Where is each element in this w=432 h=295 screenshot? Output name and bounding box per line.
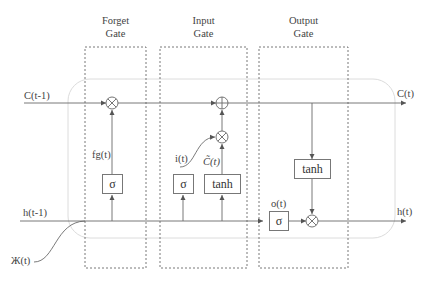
sigma-icon: σ	[180, 177, 186, 192]
cell-out-label: C(t)	[397, 89, 414, 100]
output-gate-box	[259, 47, 348, 268]
sigma-icon: σ	[276, 214, 282, 229]
forget-sigma-box: σ	[102, 174, 123, 194]
input-tanh-box: tanh	[204, 174, 241, 194]
output-sigma-box: σ	[269, 211, 289, 231]
cell-prev-label: C(t-1)	[24, 91, 50, 102]
x-input-label: Ж(t)	[11, 256, 30, 267]
input-multiply-op	[216, 131, 228, 143]
input-signal-label: i(t)	[175, 154, 188, 165]
forget-signal-label: fg(t)	[92, 150, 111, 161]
output-multiply-op	[306, 215, 318, 227]
input-title-2: Gate	[194, 28, 214, 39]
tanh-label: tanh	[302, 162, 323, 177]
forget-gate-title: Forget Gate	[85, 14, 146, 40]
tanh-label: tanh	[212, 177, 233, 192]
input-title-1: Input	[192, 15, 214, 26]
input-gate-title: Input Gate	[160, 14, 247, 40]
output-tanh-box: tanh	[294, 159, 331, 179]
candidate-signal-label: C̃(t)	[203, 157, 220, 168]
sigma-icon: σ	[109, 177, 115, 192]
hidden-out-label: h(t)	[397, 207, 412, 218]
forget-title-1: Forget	[102, 15, 129, 26]
hidden-prev-label: h(t-1)	[23, 208, 47, 219]
forget-multiply-op	[106, 97, 118, 109]
output-gate-title: Output Gate	[259, 14, 348, 40]
forget-title-2: Gate	[106, 28, 126, 39]
input-sigma-box: σ	[173, 174, 194, 194]
input-add-op	[216, 97, 228, 109]
output-title-2: Gate	[294, 28, 314, 39]
lstm-diagram-canvas	[0, 0, 432, 295]
output-title-1: Output	[289, 15, 318, 26]
input-x-curve	[34, 221, 85, 262]
output-signal-label: o(t)	[271, 199, 286, 210]
